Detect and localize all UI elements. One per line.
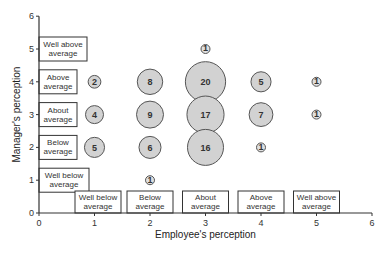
bubble-label: 9 xyxy=(147,110,152,120)
y-tick-label: 5 xyxy=(29,44,34,54)
y-tick-label: 6 xyxy=(29,11,34,21)
x-axis-title: Employee's perception xyxy=(155,229,256,240)
x-category-label: average xyxy=(191,202,220,211)
y-tick-label: 3 xyxy=(29,110,34,120)
x-category-label: About xyxy=(195,193,217,202)
x-category-label: average xyxy=(136,202,165,211)
bubble-label: 16 xyxy=(200,143,210,153)
bubble-label: 5 xyxy=(258,77,263,87)
bubble-label: 20 xyxy=(200,77,210,87)
x-tick-label: 4 xyxy=(258,218,263,228)
bubble-label: 5 xyxy=(92,143,97,153)
bubble-label: 17 xyxy=(200,110,210,120)
y-tick-label: 1 xyxy=(29,175,34,185)
x-category-label: Below xyxy=(139,193,161,202)
x-tick-label: 2 xyxy=(147,218,152,228)
y-category-label: About xyxy=(48,106,70,115)
bubble-label: 1 xyxy=(314,109,319,119)
y-axis-title: Manager's perception xyxy=(11,67,22,163)
x-tick-label: 0 xyxy=(36,218,41,228)
x-category-label: average xyxy=(84,202,113,211)
y-category-label: average xyxy=(49,49,78,58)
bubble-label: 1 xyxy=(203,43,208,53)
y-tick-label: 0 xyxy=(29,208,34,218)
y-category-label: average xyxy=(50,180,79,189)
bubble-label: 1 xyxy=(314,76,319,86)
x-tick-label: 3 xyxy=(203,218,208,228)
bubble-label: 4 xyxy=(92,110,97,120)
y-category-label: Below xyxy=(47,138,69,147)
x-category-label: average xyxy=(302,202,331,211)
bubble-label: 1 xyxy=(147,175,152,185)
x-tick-label: 6 xyxy=(369,218,374,228)
x-tick-label: 5 xyxy=(314,218,319,228)
y-category-label: average xyxy=(44,147,73,156)
y-tick-label: 2 xyxy=(29,142,34,152)
x-category-label: Above xyxy=(250,193,273,202)
y-category-label: average xyxy=(44,82,73,91)
bubble-chart: Well belowaverageBelowaverageAboutaverag… xyxy=(0,0,387,255)
y-tick-label: 4 xyxy=(29,77,34,87)
y-category-label: Well below xyxy=(45,171,84,180)
y-category-label: Well above xyxy=(43,40,83,49)
bubble-label: 8 xyxy=(147,77,152,87)
bubble-label: 7 xyxy=(258,110,263,120)
x-tick-label: 1 xyxy=(92,218,97,228)
x-category-label: average xyxy=(247,202,276,211)
y-category-label: Above xyxy=(47,73,70,82)
bubble-label: 6 xyxy=(147,143,152,153)
bubble-label: 1 xyxy=(258,142,263,152)
x-category-label: Well above xyxy=(297,193,337,202)
x-category-label: Well below xyxy=(79,193,118,202)
y-category-label: average xyxy=(44,115,73,124)
bubble-label: 2 xyxy=(92,77,97,87)
